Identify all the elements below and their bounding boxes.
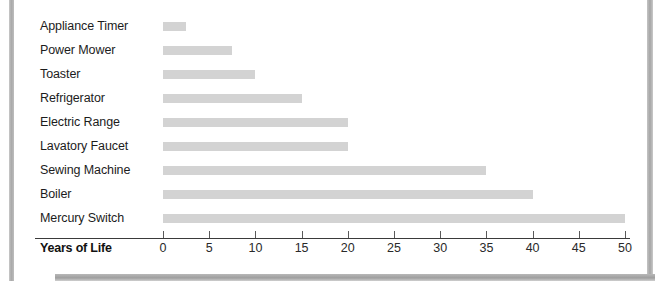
- x-axis-line: [35, 238, 630, 239]
- x-axis-tick-label: 5: [189, 241, 229, 255]
- x-axis-tick: [625, 231, 626, 238]
- category-label: Lavatory Faucet: [40, 134, 158, 158]
- bar: [163, 142, 348, 151]
- bar-row: Toaster: [0, 62, 665, 86]
- x-axis-tick: [486, 231, 487, 238]
- x-axis-tick: [255, 231, 256, 238]
- x-axis-tick: [209, 231, 210, 238]
- x-axis-tick-label: 10: [235, 241, 275, 255]
- x-axis-tick-label: 25: [374, 241, 414, 255]
- plot-region: Years of Life Appliance TimerPower Mower…: [0, 0, 665, 281]
- bar-row: Electric Range: [0, 110, 665, 134]
- x-axis-tick: [163, 231, 164, 238]
- x-axis-tick-label: 20: [328, 241, 368, 255]
- category-label: Power Mower: [40, 38, 158, 62]
- x-axis-tick-label: 40: [513, 241, 553, 255]
- bar: [163, 166, 486, 175]
- x-axis-tick: [348, 231, 349, 238]
- category-label: Electric Range: [40, 110, 158, 134]
- x-axis-title: Years of Life: [40, 241, 112, 255]
- x-axis-tick-label: 0: [143, 241, 183, 255]
- bar: [163, 190, 533, 199]
- bar-chart: Years of Life Appliance TimerPower Mower…: [0, 0, 665, 281]
- bar: [163, 118, 348, 127]
- bar-row: Refrigerator: [0, 86, 665, 110]
- bar-row: Lavatory Faucet: [0, 134, 665, 158]
- bar: [163, 94, 302, 103]
- x-axis-tick-label: 30: [420, 241, 460, 255]
- x-axis-tick: [533, 231, 534, 238]
- bar: [163, 22, 186, 31]
- category-label: Sewing Machine: [40, 158, 158, 182]
- x-axis-tick-label: 35: [466, 241, 506, 255]
- category-label: Boiler: [40, 182, 158, 206]
- bar-row: Power Mower: [0, 38, 665, 62]
- bar: [163, 70, 255, 79]
- category-label: Appliance Timer: [40, 14, 158, 38]
- bar: [163, 46, 232, 55]
- category-label: Mercury Switch: [40, 206, 158, 230]
- x-axis-tick: [394, 231, 395, 238]
- x-axis-tick: [440, 231, 441, 238]
- bar-row: Boiler: [0, 182, 665, 206]
- category-label: Refrigerator: [40, 86, 158, 110]
- x-axis-tick-label: 15: [282, 241, 322, 255]
- x-axis-tick: [579, 231, 580, 238]
- bar: [163, 214, 625, 223]
- bar-row: Sewing Machine: [0, 158, 665, 182]
- x-axis-tick-label: 50: [605, 241, 645, 255]
- category-label: Toaster: [40, 62, 158, 86]
- x-axis-tick-label: 45: [559, 241, 599, 255]
- bar-row: Mercury Switch: [0, 206, 665, 230]
- x-axis-tick: [302, 231, 303, 238]
- bar-row: Appliance Timer: [0, 14, 665, 38]
